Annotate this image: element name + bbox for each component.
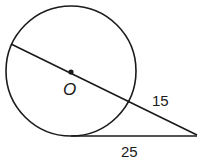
tangent-length-label: 25 <box>121 143 138 160</box>
center-point <box>68 69 73 74</box>
secant-external-length-label: 15 <box>152 92 169 109</box>
center-label: O <box>63 80 76 99</box>
geometry-diagram: O 15 25 <box>0 0 199 162</box>
secant-line <box>11 44 197 135</box>
